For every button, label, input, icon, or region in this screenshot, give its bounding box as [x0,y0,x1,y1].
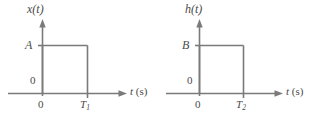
x-axis-arrowhead [275,90,284,96]
signal-label: x(t) [27,3,44,15]
origin-label-x: 0 [38,99,44,110]
duration-label: T2 [236,99,246,111]
origin-label-y: 0 [187,75,193,86]
origin-label-y: 0 [30,75,36,86]
duration-label-subscript: 2 [242,103,246,112]
signal-label: h(t) [185,3,202,15]
x-axis-label: t (s) [130,86,147,97]
x-axis-label: t (s) [286,86,303,97]
x-axis-label-unit: (s) [136,85,148,97]
y-axis-arrowhead [196,19,202,28]
signal-pulse-figure: x(t) A 0 0 T1 t (s) h(t) B 0 0 T2 [0,0,328,123]
origin-label-x: 0 [195,99,201,110]
x-axis-label-var: t [130,85,133,97]
amplitude-label: A [25,39,32,51]
duration-label: T1 [80,99,90,111]
x-axis-label-unit: (s) [292,85,304,97]
y-axis-arrowhead [39,19,45,28]
plot-left-xt: x(t) A 0 0 T1 t (s) [0,0,164,123]
amplitude-label: B [182,39,189,51]
x-axis-label-var: t [286,85,289,97]
plot-right-ht: h(t) B 0 0 T2 t (s) [164,0,328,123]
x-axis-arrowhead [119,90,128,96]
duration-label-subscript: 1 [86,103,90,112]
